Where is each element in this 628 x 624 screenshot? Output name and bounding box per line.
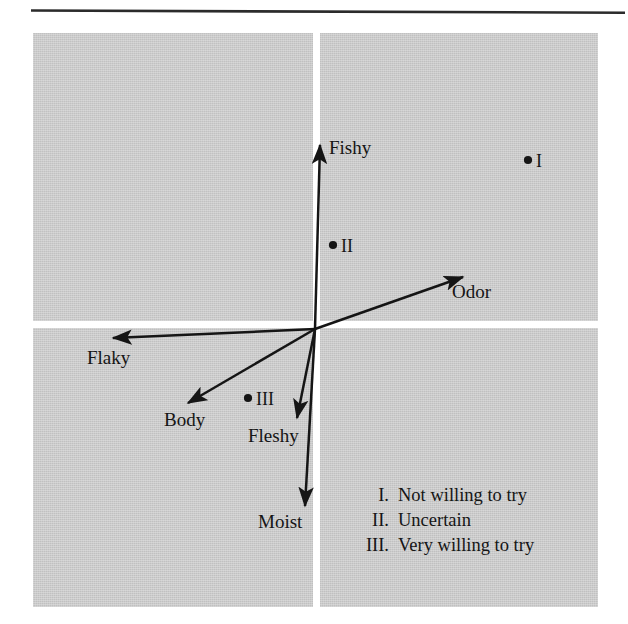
- axis-label-fleshy: Fleshy: [248, 426, 299, 445]
- point-label-i: I: [536, 152, 542, 170]
- axis-vector-fishy: [315, 145, 320, 329]
- group-point-i: [524, 156, 532, 164]
- legend-numeral-i: I.: [355, 483, 398, 508]
- perceptual-map-figure: Fishy Odor Flaky Body Fleshy Moist I II …: [33, 33, 598, 607]
- legend-text-i: Not willing to try: [398, 483, 527, 508]
- legend-item-iii: III. Very willing to try: [355, 533, 534, 558]
- legend: I. Not willing to try II. Uncertain III.…: [355, 483, 534, 558]
- axis-label-fishy: Fishy: [329, 138, 371, 157]
- legend-item-ii: II. Uncertain: [355, 508, 534, 533]
- header-rule: [31, 9, 625, 14]
- legend-numeral-iii: III.: [355, 533, 398, 558]
- point-label-ii: II: [341, 237, 353, 255]
- group-point-iii: [244, 394, 252, 402]
- legend-text-iii: Very willing to try: [398, 533, 534, 558]
- axis-label-odor: Odor: [452, 282, 491, 301]
- axis-label-flaky: Flaky: [87, 348, 130, 367]
- legend-numeral-ii: II.: [355, 508, 398, 533]
- axis-vector-body: [188, 329, 315, 403]
- group-point-ii: [329, 241, 337, 249]
- axis-vector-flaky: [113, 329, 315, 338]
- legend-text-ii: Uncertain: [398, 508, 471, 533]
- point-label-iii: III: [256, 390, 274, 408]
- axis-label-body: Body: [164, 410, 205, 429]
- axis-vector-odor: [315, 277, 463, 329]
- axis-label-moist: Moist: [258, 512, 302, 531]
- legend-item-i: I. Not willing to try: [355, 483, 534, 508]
